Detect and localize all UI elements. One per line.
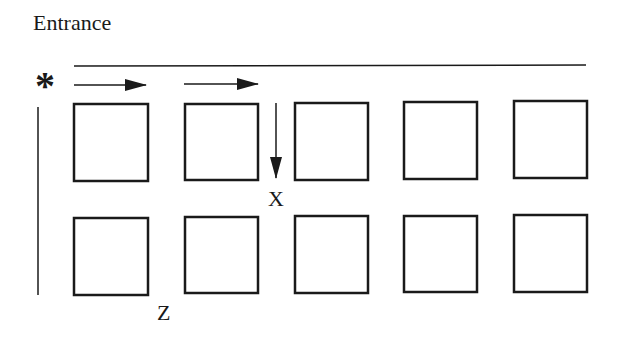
shelf-r2-c1 [74, 218, 148, 295]
shelf-r2-c2 [185, 217, 258, 293]
store-layout-diagram [0, 0, 624, 337]
top-wall-line [74, 65, 586, 66]
shelf-r1-c4 [404, 102, 477, 179]
shelf-r2-c5 [514, 215, 587, 292]
shelf-r1-c2 [185, 104, 258, 180]
shelf-grid [74, 101, 587, 295]
shelf-r2-c3 [295, 216, 368, 293]
label-z: Z [157, 300, 170, 326]
shelf-r1-c1 [74, 104, 148, 181]
start-asterisk-icon: * [35, 66, 55, 106]
shelf-r1-c5 [514, 101, 587, 178]
shelf-r2-c4 [404, 216, 477, 292]
label-x: X [268, 186, 284, 212]
shelf-r1-c3 [295, 103, 368, 180]
